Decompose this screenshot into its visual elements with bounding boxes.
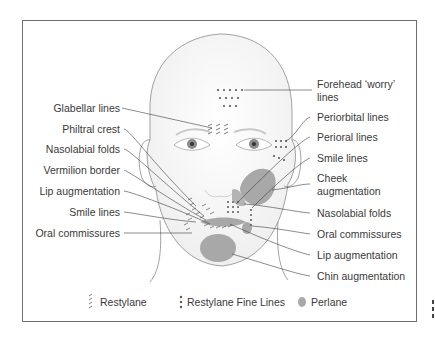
label-periorbital-lines: Periorbital lines xyxy=(317,111,389,123)
label-smile-lines-right: Smile lines xyxy=(317,152,368,164)
margin-mark xyxy=(432,300,434,304)
label-lip-augmentation-left: Lip augmentation xyxy=(39,185,120,197)
legend-restylane-fine-lines: Restylane Fine Lines xyxy=(187,296,285,308)
restylane-fine-dots-icon xyxy=(180,296,182,308)
label-nasolabial-folds-right: Nasolabial folds xyxy=(317,207,391,219)
label-vermilion-border: Vermilion border xyxy=(44,164,120,176)
label-forehead-worry: Forehead ‘worry’ xyxy=(317,78,395,90)
perlane-blob-icon xyxy=(298,297,306,307)
restylane-hatch-icon xyxy=(89,294,92,308)
label-cheek-augmentation: augmentation xyxy=(317,185,381,197)
margin-mark xyxy=(432,314,434,318)
label-smile-lines-left: Smile lines xyxy=(69,206,120,218)
label-oral-commissures-left: Oral commissures xyxy=(35,227,120,239)
legend-restylane: Restylane xyxy=(100,296,147,308)
label-chin-augmentation: Chin augmentation xyxy=(317,270,405,282)
label-cheek: Cheek xyxy=(317,172,347,184)
label-lip-augmentation-right: Lip augmentation xyxy=(317,249,398,261)
label-forehead-lines: lines xyxy=(317,91,339,103)
label-nasolabial-folds-left: Nasolabial folds xyxy=(46,143,120,155)
label-perioral-lines: Perioral lines xyxy=(317,131,378,143)
margin-mark xyxy=(432,307,434,311)
label-glabellar-lines: Glabellar lines xyxy=(53,102,120,114)
legend-perlane: Perlane xyxy=(311,296,347,308)
label-oral-commissures-right: Oral commissures xyxy=(317,228,402,240)
label-philtral-crest: Philtral crest xyxy=(62,123,120,135)
